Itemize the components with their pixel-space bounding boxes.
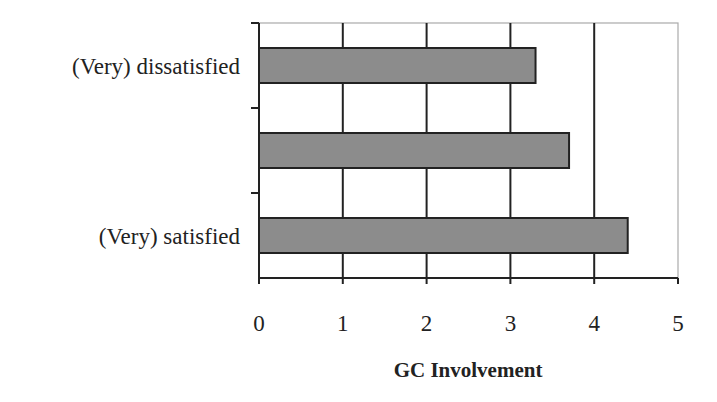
bar-chart: 012345 (Very) dissatisfied(Very) satisfi… bbox=[0, 0, 717, 402]
x-tick-label: 2 bbox=[421, 311, 433, 336]
chart-canvas: 012345 (Very) dissatisfied(Very) satisfi… bbox=[0, 0, 717, 402]
x-tick-label: 4 bbox=[588, 311, 600, 336]
bar bbox=[259, 218, 628, 253]
x-tick-label: 0 bbox=[253, 311, 265, 336]
x-tick-labels: 012345 bbox=[253, 311, 684, 336]
x-tick-label: 3 bbox=[505, 311, 517, 336]
category-label: (Very) satisfied bbox=[99, 224, 241, 249]
bar bbox=[259, 133, 569, 168]
x-tick-label: 1 bbox=[337, 311, 349, 336]
category-label: (Very) dissatisfied bbox=[72, 54, 240, 79]
x-axis-title: GC Involvement bbox=[394, 358, 543, 382]
bar bbox=[259, 48, 536, 83]
category-labels: (Very) dissatisfied(Very) satisfied bbox=[72, 54, 240, 249]
x-tick-label: 5 bbox=[672, 311, 684, 336]
